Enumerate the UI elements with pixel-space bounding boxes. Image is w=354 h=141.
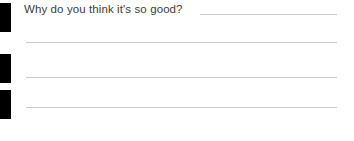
registration-mark-icon — [0, 54, 11, 83]
answer-write-in-line[interactable] — [200, 14, 337, 15]
answer-write-in-line[interactable] — [26, 107, 337, 108]
answer-write-in-line[interactable] — [26, 77, 337, 78]
answer-write-in-line[interactable] — [26, 42, 337, 43]
question-prompt: Why do you think it's so good? — [24, 1, 183, 18]
survey-form-page: Why do you think it's so good? — [0, 0, 354, 141]
registration-mark-icon — [0, 3, 11, 32]
registration-mark-icon — [0, 90, 11, 119]
